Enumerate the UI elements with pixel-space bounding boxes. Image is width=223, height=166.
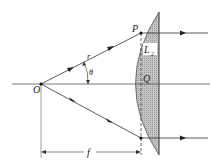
label-p: P: [131, 23, 138, 34]
label-f: f: [87, 147, 91, 158]
optics-diagram: O P Q r θ L 2 f: [0, 0, 223, 166]
focal-arrow-left: [41, 150, 46, 154]
label-r: r: [87, 51, 91, 61]
label-q: Q: [143, 73, 151, 84]
arrow-out-lower: [180, 136, 186, 141]
ray-lower: [41, 84, 141, 138]
angle-arrow-bottom: [86, 80, 90, 84]
label-lens-sub: 2: [151, 51, 154, 57]
arrow-upper-1: [67, 67, 74, 72]
label-theta: θ: [89, 68, 93, 77]
point-p-dot: [139, 31, 142, 34]
label-lens: L: [143, 44, 150, 55]
arrow-out-upper: [180, 31, 186, 36]
label-o: O: [33, 84, 40, 95]
point-bottom-dot: [139, 136, 142, 139]
focal-arrow-right: [136, 150, 141, 154]
arrow-lower-2: [106, 118, 113, 123]
